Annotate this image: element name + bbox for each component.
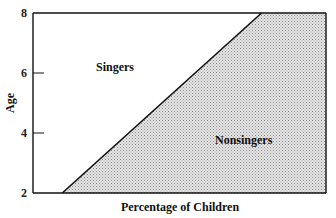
nonsingers-label: Nonsingers [215,133,273,147]
y-tick-label: 8 [21,6,27,20]
x-axis-label: Percentage of Children [121,200,240,214]
y-tick-label: 2 [21,186,27,200]
y-tick-label: 4 [21,126,27,140]
nonsingers-region [62,13,326,193]
y-tick-label: 6 [21,66,27,80]
y-axis-label: Age [3,92,17,113]
singers-label: Singers [96,60,134,74]
chart: 2468 Age Percentage of Children Singers … [0,0,336,218]
